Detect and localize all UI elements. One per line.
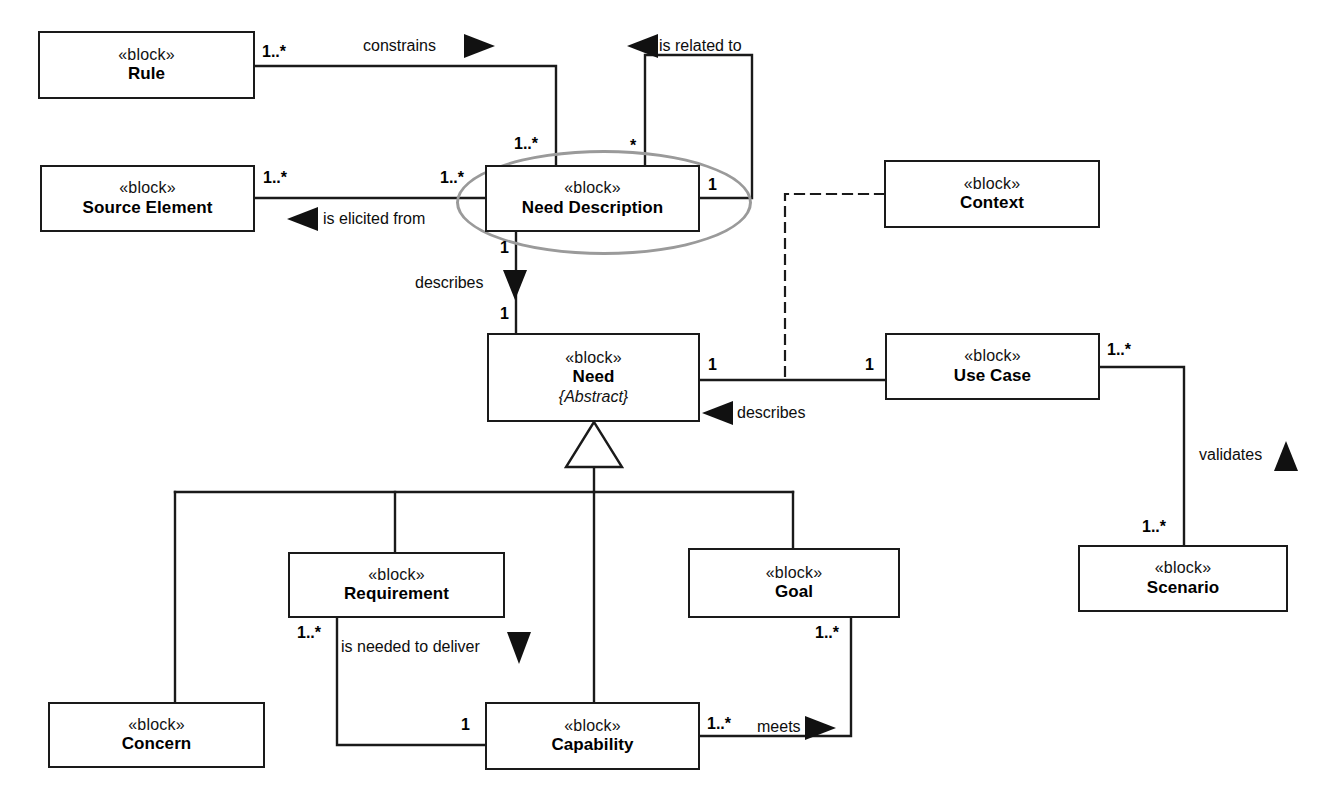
label-describes-need: describes — [415, 275, 483, 291]
block-capability[interactable]: «block» Capability — [485, 702, 700, 770]
block-requirement[interactable]: «block» Requirement — [288, 552, 505, 618]
multiplicity-source-element-out: 1..* — [263, 170, 287, 186]
block-context[interactable]: «block» Context — [884, 160, 1100, 228]
block-name: Capability — [551, 735, 633, 755]
edge-constrains — [255, 66, 556, 165]
label-validates: validates — [1199, 447, 1262, 463]
block-name: Source Element — [83, 198, 213, 218]
label-is-needed-to-deliver: is needed to deliver — [341, 639, 480, 655]
arrowhead-describes-use-case — [702, 401, 733, 425]
arrowhead-is-needed-to-deliver — [507, 632, 531, 664]
block-stereotype: «block» — [564, 717, 621, 735]
multiplicity-need-from-description: 1 — [500, 306, 509, 322]
arrowhead-is-related-to — [627, 34, 658, 58]
block-name: Scenario — [1147, 578, 1220, 598]
block-stereotype: «block» — [564, 179, 621, 197]
block-name: Need — [573, 367, 615, 387]
multiplicity-need-description-related-source: * — [630, 138, 636, 154]
multiplicity-requirement-to-capability: 1..* — [297, 625, 321, 641]
edge-context-dependency — [785, 194, 884, 380]
multiplicity-need-description-from-source: 1..* — [440, 170, 464, 186]
multiplicity-use-case-to-scenario: 1..* — [1107, 342, 1131, 358]
label-is-elicited-from: is elicited from — [323, 211, 425, 227]
multiplicity-need-description-related-target: 1 — [708, 177, 717, 193]
block-concern[interactable]: «block» Concern — [48, 702, 265, 768]
label-is-related-to: is related to — [659, 38, 742, 54]
multiplicity-capability-to-goal: 1..* — [707, 716, 731, 732]
arrowhead-describes-need — [503, 270, 527, 300]
multiplicity-capability-from-requirement: 1 — [461, 717, 470, 733]
multiplicity-goal-from-capability: 1..* — [815, 625, 839, 641]
arrowhead-is-elicited-from — [287, 207, 318, 231]
block-stereotype: «block» — [964, 347, 1021, 365]
block-use-case[interactable]: «block» Use Case — [885, 333, 1100, 400]
block-source-element[interactable]: «block» Source Element — [40, 165, 255, 232]
arrowhead-meets — [805, 716, 836, 740]
block-stereotype: «block» — [118, 46, 175, 64]
arrowhead-validates — [1274, 441, 1298, 471]
arrowhead-constrains — [464, 34, 495, 58]
label-meets: meets — [757, 719, 801, 735]
multiplicity-scenario-from-use-case: 1..* — [1142, 519, 1166, 535]
block-stereotype: «block» — [565, 349, 622, 367]
block-stereotype: «block» — [766, 564, 823, 582]
block-stereotype: «block» — [964, 175, 1021, 193]
block-name: Context — [960, 193, 1024, 213]
block-name: Goal — [775, 582, 813, 602]
block-stereotype: «block» — [368, 566, 425, 584]
block-name: Requirement — [344, 584, 449, 604]
block-name: Rule — [128, 64, 165, 84]
label-constrains: constrains — [363, 38, 436, 54]
multiplicity-rule-out: 1..* — [262, 44, 286, 60]
block-need-description[interactable]: «block» Need Description — [485, 165, 700, 232]
block-stereotype: «block» — [128, 716, 185, 734]
block-modifier: {Abstract} — [559, 387, 628, 406]
label-describes-use-case: describes — [737, 405, 805, 421]
block-stereotype: «block» — [1155, 559, 1212, 577]
block-name: Need Description — [522, 198, 663, 218]
block-stereotype: «block» — [119, 179, 176, 197]
block-rule[interactable]: «block» Rule — [38, 31, 255, 99]
block-need[interactable]: «block» Need {Abstract} — [487, 333, 700, 422]
block-name: Use Case — [954, 366, 1031, 386]
block-scenario[interactable]: «block» Scenario — [1078, 545, 1288, 612]
multiplicity-need-description-constrained-by: 1..* — [514, 136, 538, 152]
diagram-canvas: «block» Rule «block» Source Element «blo… — [0, 0, 1325, 800]
multiplicity-use-case-from-need: 1 — [865, 357, 874, 373]
multiplicity-need-description-describes: 1 — [500, 240, 509, 256]
multiplicity-need-to-use-case: 1 — [708, 357, 717, 373]
block-goal[interactable]: «block» Goal — [688, 548, 900, 618]
generalization-triangle — [566, 422, 622, 467]
block-name: Concern — [122, 734, 192, 754]
